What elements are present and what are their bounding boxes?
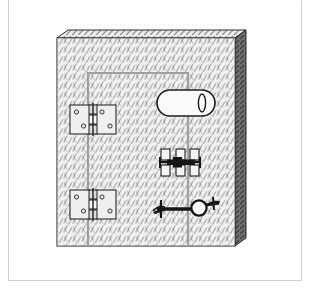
hinge-lower[interactable] (70, 188, 116, 221)
metal-door-illustration (0, 0, 310, 289)
pull-handle-stadium[interactable] (157, 90, 215, 116)
hinge-upper[interactable] (70, 103, 116, 136)
barrel-bolt-assembly[interactable] (160, 149, 201, 176)
screenshot-stage (0, 0, 310, 289)
latch-round-knob[interactable] (191, 200, 206, 215)
handle-keyhole-ellipse[interactable] (198, 94, 205, 112)
hinge-upper-knuckles (89, 103, 97, 136)
door-top-edge-3d (57, 30, 246, 38)
hinge-lower-knuckles (89, 188, 97, 221)
door-right-edge-3d (235, 30, 246, 246)
